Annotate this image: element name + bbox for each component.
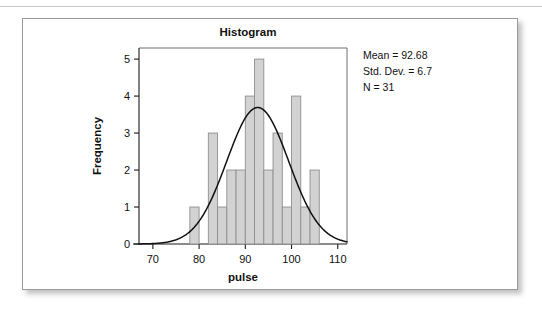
histogram-bar (292, 96, 301, 244)
y-tick-label: 0 (124, 238, 130, 250)
x-tick-label: 100 (282, 253, 300, 265)
stat-mean: Mean = 92.68 (363, 49, 428, 61)
x-tick-label: 80 (193, 253, 205, 265)
statistics-annotation: Mean = 92.68 Std. Dev. = 6.7 N = 31 (363, 49, 432, 93)
x-tick-label: 90 (239, 253, 251, 265)
histogram-bar (236, 170, 245, 244)
histogram-figure-card: Histogram 012345 708090100110 Frequency … (22, 18, 518, 290)
x-tick-label: 110 (329, 253, 347, 265)
histogram-bar (245, 96, 254, 244)
page-top-divider (0, 6, 542, 7)
histogram-bar (282, 207, 291, 244)
histogram-bar (255, 59, 264, 244)
y-tick-label: 5 (124, 53, 130, 65)
histogram-bar (310, 170, 319, 244)
y-tick-label: 3 (124, 127, 130, 139)
y-axis-title: Frequency (91, 116, 103, 175)
y-tick-label: 4 (124, 90, 130, 102)
histogram-bars (190, 59, 319, 244)
histogram-bar (301, 207, 310, 244)
stat-n: N = 31 (363, 81, 394, 93)
y-tick-label: 2 (124, 164, 130, 176)
x-axis-title: pulse (228, 271, 258, 283)
histogram-bar (190, 207, 199, 244)
stat-stddev: Std. Dev. = 6.7 (363, 65, 432, 77)
y-tick-label: 1 (124, 201, 130, 213)
x-axis-ticks: 708090100110 (147, 244, 347, 265)
histogram-bar (218, 207, 227, 244)
histogram-chart: Histogram 012345 708090100110 Frequency … (23, 19, 517, 289)
histogram-bar (264, 170, 273, 244)
chart-title: Histogram (220, 26, 277, 38)
histogram-bar (273, 133, 282, 244)
x-tick-label: 70 (147, 253, 159, 265)
histogram-bar (227, 170, 236, 244)
y-axis-ticks: 012345 (124, 53, 139, 250)
